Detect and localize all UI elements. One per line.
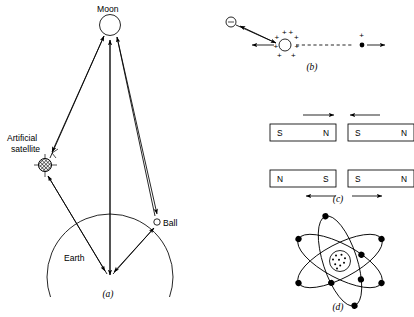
magnet-top-right-right-pole: N bbox=[401, 128, 407, 138]
magnet-bottom-left: N S bbox=[270, 170, 336, 196]
force-arrow-ball-to-earth bbox=[114, 228, 154, 272]
magnet-top-left-right-pole: N bbox=[323, 128, 329, 138]
magnet-top-left: S N bbox=[270, 115, 336, 141]
magnet-top-right-left-pole: S bbox=[355, 128, 361, 138]
force-arrow-moon-to-ball bbox=[117, 37, 157, 214]
svg-text:+: + bbox=[277, 51, 282, 60]
magnet-bottom-right: S N bbox=[348, 170, 414, 196]
svg-text:+: + bbox=[275, 33, 280, 42]
svg-text:+: + bbox=[282, 28, 287, 37]
physics-forces-figure: Moon Artificial satellite Ball Earth (a)… bbox=[0, 0, 414, 317]
positive-charge-point-sign: + bbox=[359, 31, 364, 40]
panel-d-atom-model: (d) bbox=[291, 208, 393, 313]
earth-arc-left-tail bbox=[47, 277, 51, 297]
atom-nucleus bbox=[330, 251, 351, 272]
magnet-bottom-left-right-pole: S bbox=[323, 174, 329, 184]
svg-text:+: + bbox=[291, 51, 296, 60]
artificial-satellite-label-line2: satellite bbox=[11, 144, 40, 154]
positive-charge-point-body bbox=[360, 43, 365, 48]
svg-text:+: + bbox=[295, 42, 300, 51]
panel-c-caption: (c) bbox=[333, 194, 344, 205]
artificial-satellite-label-line1: Artificial bbox=[7, 133, 37, 143]
electron bbox=[351, 302, 359, 310]
force-arrow-moon-to-satellite bbox=[52, 36, 104, 152]
magnet-bottom-left-left-pole: N bbox=[277, 174, 283, 184]
force-arrow-positive-to-negative bbox=[240, 26, 276, 43]
panel-a-caption: (a) bbox=[102, 289, 113, 300]
magnet-bottom-right-right-pole: N bbox=[401, 174, 407, 184]
positive-charge-large-body bbox=[279, 39, 291, 51]
panel-b-electric-forces: + + + + + + + + + (b) bbox=[226, 17, 385, 73]
panel-b-caption: (b) bbox=[306, 62, 317, 73]
moon-label: Moon bbox=[97, 4, 119, 14]
svg-text:+: + bbox=[289, 28, 294, 37]
magnet-top-left-left-pole: S bbox=[277, 128, 283, 138]
earth-label: Earth bbox=[64, 253, 85, 263]
panel-c-magnetic-forces: S N S N N S S N bbox=[270, 115, 414, 205]
panel-d-caption: (d) bbox=[332, 302, 343, 313]
ball-body bbox=[154, 219, 160, 225]
electron bbox=[357, 276, 365, 284]
moon-body bbox=[100, 15, 121, 36]
svg-text:+: + bbox=[274, 42, 279, 51]
ball-label: Ball bbox=[163, 218, 177, 228]
electron bbox=[327, 279, 335, 287]
figure-canvas: Moon Artificial satellite Ball Earth (a)… bbox=[0, 0, 414, 317]
panel-a-gravitation: Moon Artificial satellite Ball Earth (a) bbox=[7, 4, 177, 300]
magnet-top-right: S N bbox=[348, 115, 414, 141]
magnet-bottom-right-left-pole: S bbox=[355, 174, 361, 184]
electron bbox=[322, 212, 330, 220]
earth-arc-right-tail bbox=[170, 277, 174, 297]
